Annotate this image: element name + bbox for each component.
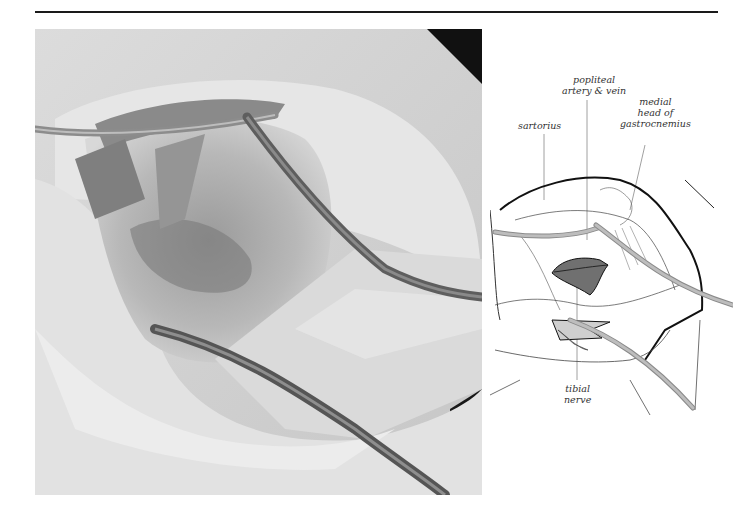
label-sartorius: sartorius	[518, 120, 561, 131]
surgical-photo	[35, 29, 482, 495]
label-gastro-line2: head of	[620, 107, 691, 118]
surgical-photo-image	[35, 29, 482, 495]
label-gastro-line1: medial	[620, 96, 691, 107]
label-medial-head-gastrocnemius: medial head of gastrocnemius	[620, 96, 691, 129]
label-gastro-line3: gastrocnemius	[620, 118, 691, 129]
label-tibial-nerve: tibial nerve	[564, 383, 591, 405]
header-rule	[35, 11, 718, 13]
anatomical-diagram: popliteal artery & vein sartorius medial…	[490, 60, 733, 420]
label-popliteal-artery-vein: popliteal artery & vein	[562, 74, 626, 96]
gastrocnemius-leader	[630, 145, 645, 210]
label-popliteal-line2: artery & vein	[562, 85, 626, 96]
label-tibial-line2: nerve	[564, 394, 591, 405]
label-popliteal-line1: popliteal	[562, 74, 626, 85]
label-tibial-line1: tibial	[564, 383, 591, 394]
diagram-drawing	[490, 60, 733, 420]
